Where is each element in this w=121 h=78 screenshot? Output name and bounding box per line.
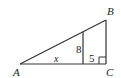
vertex-label-b: B [107, 5, 114, 17]
segment-label-5: 5 [89, 52, 95, 64]
vertex-label-a: A [12, 66, 20, 78]
segment-label-x: x [53, 53, 59, 64]
triangle-diagram: A B C 8 x 5 [0, 0, 121, 78]
right-angle-marker [99, 57, 106, 64]
segment-label-8: 8 [76, 43, 82, 55]
vertex-label-c: C [106, 66, 114, 78]
